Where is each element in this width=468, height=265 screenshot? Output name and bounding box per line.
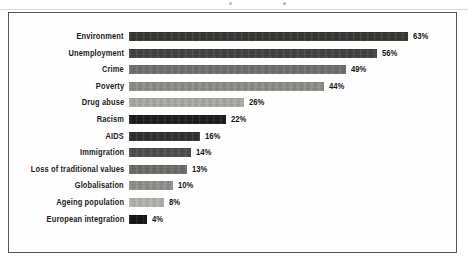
bar-category-label: Poverty [96,79,124,94]
bar-fill [129,181,173,190]
bar-row: European integration4% [9,212,456,227]
bar-track: 10% [129,181,452,190]
bar-track: 44% [129,82,452,91]
bar-fill [129,82,324,91]
bar-fill [129,165,187,174]
bar-category-label: Unemployment [68,46,124,61]
bar-value-label: 16% [205,129,220,144]
bar-fill [129,115,226,124]
bar-fill [129,98,244,107]
bar-track: 13% [129,165,452,174]
bar-row: Drug abuse26% [9,95,456,110]
bar-row: Environment63% [9,29,456,44]
bar-row: Racism22% [9,112,456,127]
bar-track: 26% [129,98,452,107]
bar-category-label: Drug abuse [82,95,124,110]
bar-fill [129,215,147,224]
bar-track: 16% [129,132,452,141]
bar-value-label: 10% [178,178,193,193]
bar-row: Poverty44% [9,79,456,94]
bar-value-label: 63% [413,29,428,44]
bar-category-label: Racism [97,112,124,127]
bar-track: 49% [129,65,452,74]
bar-value-label: 49% [351,62,366,77]
bar-category-label: Environment [77,29,124,44]
bar-value-label: 14% [196,145,211,160]
bar-fill [129,148,191,157]
bar-fill [129,32,408,41]
bar-value-label: 22% [231,112,246,127]
bar-row: Unemployment56% [9,46,456,61]
bar-category-label: Immigration [80,145,124,160]
bar-track: 63% [129,32,452,41]
bar-fill [129,198,164,207]
bar-category-label: Loss of traditional values [30,162,124,177]
bar-row: Globalisation10% [9,178,456,193]
bar-row: Loss of traditional values13% [9,162,456,177]
scan-artifact-speck [229,2,232,5]
bar-fill [129,49,377,58]
bar-value-label: 56% [382,46,397,61]
bar-value-label: 8% [169,195,180,210]
bar-track: 56% [129,49,452,58]
bar-category-label: Globalisation [75,178,124,193]
bar-chart-plot: Environment63%Unemployment56%Crime49%Pov… [9,13,456,252]
bar-row: Immigration14% [9,145,456,160]
bar-value-label: 44% [329,79,344,94]
bar-value-label: 13% [192,162,207,177]
bar-category-label: Crime [102,62,124,77]
bar-fill [129,132,200,141]
bar-category-label: European integration [46,212,124,227]
scan-artifact-speck [283,2,286,5]
bar-row: AIDS16% [9,129,456,144]
bar-category-label: Ageing population [56,195,124,210]
bar-track: 14% [129,148,452,157]
bar-track: 22% [129,115,452,124]
bar-value-label: 4% [152,212,163,227]
bar-row: Ageing population8% [9,195,456,210]
chart-frame: Environment63%Unemployment56%Crime49%Pov… [8,12,457,253]
bar-row: Crime49% [9,62,456,77]
bar-track: 8% [129,198,452,207]
bar-value-label: 26% [249,95,264,110]
scan-artifact-line [0,9,468,10]
bar-fill [129,65,346,74]
bar-category-label: AIDS [106,129,124,144]
bar-track: 4% [129,215,452,224]
